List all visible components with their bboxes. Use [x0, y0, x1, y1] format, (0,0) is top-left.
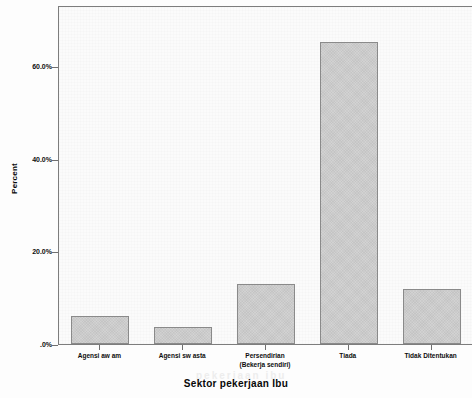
x-axis-tick-mark	[265, 345, 266, 350]
y-axis-tick-label: .0%	[40, 341, 52, 349]
x-axis-category-label-5: Tidak Ditentukan	[404, 351, 456, 360]
x-axis-tick-mark	[182, 345, 183, 350]
bar-4	[320, 42, 378, 344]
bar-3	[237, 284, 295, 344]
bar-2	[154, 327, 212, 344]
bar-chart: ampiran kerjaan pekerjaan ibu Percent .0…	[0, 0, 472, 398]
y-axis-tick-label: 60.0%	[32, 63, 52, 71]
x-axis-category-label-3: Persendirian(Bekerja sendiri)	[240, 351, 291, 369]
x-axis-category-label-1: Agensi aw am	[78, 351, 121, 360]
plot-area	[58, 6, 472, 345]
x-axis-tick-mark	[99, 345, 100, 350]
y-axis-tick-label: 40.0%	[32, 156, 52, 164]
y-axis-tick-label: 20.0%	[32, 248, 52, 256]
x-axis-tick-mark	[431, 345, 432, 350]
bar-5	[403, 289, 461, 344]
y-axis-tick-labels: .0%20.0%40.0%60.0%	[0, 0, 52, 398]
x-axis-category-label-4: Tiada	[339, 351, 356, 360]
x-axis-category-label-2: Agensi sw asta	[159, 351, 206, 360]
x-axis-title: Sektor pekerjaan Ibu	[0, 378, 472, 389]
x-axis-tick-mark	[348, 345, 349, 350]
bar-1	[71, 316, 129, 344]
x-axis-tick-labels: Agensi aw amAgensi sw astaPersendirian(B…	[58, 351, 472, 377]
